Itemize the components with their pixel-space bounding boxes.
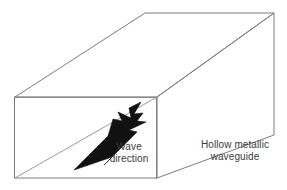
wave-direction-label-line-1: Wave — [100, 141, 158, 153]
waveguide-caption-line-2: waveguide — [193, 151, 277, 163]
wave-direction-label-line-2: direction — [100, 153, 158, 165]
box-top-face-edge — [15, 13, 274, 97]
waveguide-caption-line-1: Hollow metallic — [193, 139, 277, 151]
waveguide-figure: Wave direction Hollow metallic waveguide — [0, 0, 287, 190]
wave-direction-label: Wave direction — [100, 141, 158, 164]
waveguide-caption-label: Hollow metallic waveguide — [193, 139, 277, 162]
